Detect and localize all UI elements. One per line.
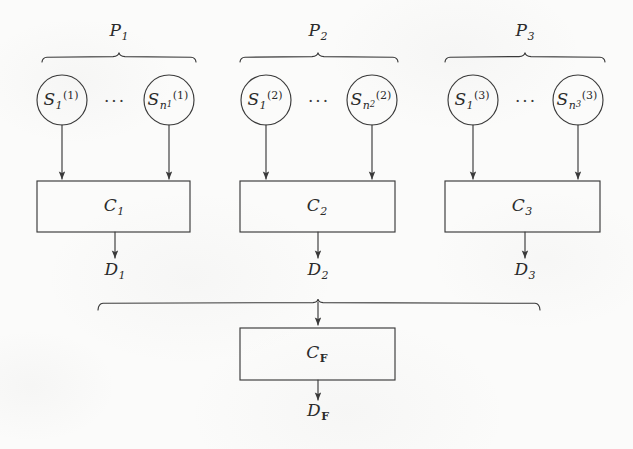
fusion-decision-label-df: DF bbox=[307, 402, 329, 422]
fusion-classifier-label-cf: CF bbox=[306, 344, 327, 364]
ellipsis-p1: ··· bbox=[104, 91, 126, 111]
decision-label-d1: D1 bbox=[104, 261, 125, 281]
sensor-label-s1-p3: S1(3) bbox=[454, 90, 489, 111]
brace-label-p2: P2 bbox=[309, 22, 328, 42]
brace-p2 bbox=[240, 53, 398, 63]
sensor-label-s1-p2: S1(2) bbox=[247, 90, 282, 111]
sensor-label-sn2-p2: Sn2(2) bbox=[351, 90, 392, 111]
decision-label-d2: D2 bbox=[307, 261, 328, 281]
diagram-vector-layer bbox=[0, 0, 633, 449]
decision-label-d3: D3 bbox=[514, 261, 535, 281]
figure-canvas: P1 P2 P3 S1(1) ··· Sn1(1) S1(2) ··· Sn2(… bbox=[0, 0, 633, 449]
brace-p1 bbox=[42, 53, 196, 63]
ellipsis-p2: ··· bbox=[308, 91, 330, 111]
sensor-label-sn1-p1: Sn1(1) bbox=[148, 90, 189, 111]
classifier-label-c2: C2 bbox=[307, 197, 328, 217]
brace-label-p1: P1 bbox=[110, 22, 129, 42]
classifier-label-c1: C1 bbox=[104, 197, 125, 217]
sensor-label-s1-p1: S1(1) bbox=[43, 90, 78, 111]
classifier-label-c3: C3 bbox=[512, 197, 533, 217]
brace-label-p3: P3 bbox=[516, 22, 535, 42]
sensor-label-sn3-p3: Sn3(3) bbox=[557, 90, 598, 111]
brace-fusion-input bbox=[98, 299, 540, 310]
ellipsis-p3: ··· bbox=[515, 91, 537, 111]
brace-p3 bbox=[445, 53, 605, 63]
